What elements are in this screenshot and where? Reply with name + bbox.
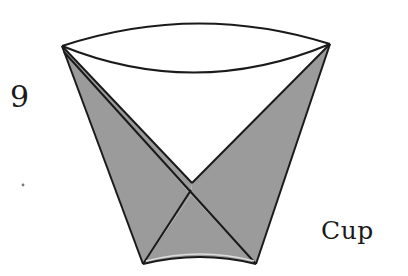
origami-cup-diagram: 9 Cup [0, 0, 408, 276]
figure-caption: Cup [321, 216, 374, 246]
speck [22, 184, 25, 187]
cup-rim-top-arc [62, 23, 330, 46]
cup-rim-bottom-arc [62, 44, 330, 73]
step-number: 9 [10, 80, 29, 114]
